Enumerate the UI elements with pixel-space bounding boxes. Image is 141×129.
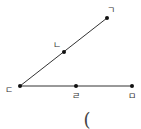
point-mieum (130, 84, 134, 88)
point-rieul (74, 84, 78, 88)
label-mieum: ㅁ (128, 92, 136, 101)
point-nieun (62, 50, 66, 54)
label-nieun: ㄴ (53, 41, 61, 50)
label-giyeok: ㄱ (107, 6, 115, 15)
label-digeut: ㄷ (5, 86, 13, 95)
point-digeut (18, 84, 22, 88)
label-rieul: ㄹ (72, 92, 80, 101)
answer-blank-paren: ( (83, 111, 90, 129)
angle-diagram (0, 0, 141, 129)
point-giyeok (105, 16, 109, 20)
